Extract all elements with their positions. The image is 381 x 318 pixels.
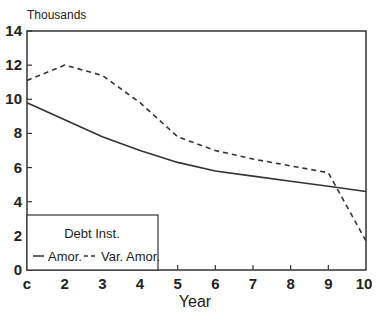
line-chart: Thousands 02468101214 c2345678910 Year D…: [0, 0, 381, 318]
series-line-amor: [27, 103, 366, 192]
x-tick-label: 5: [173, 275, 181, 292]
y-tick-label: 14: [5, 22, 22, 39]
x-axis-label: Year: [179, 293, 212, 310]
x-tick-label: 2: [60, 275, 68, 292]
x-tick-label: 3: [98, 275, 106, 292]
y-tick-label: 2: [14, 227, 22, 244]
x-tick-label: c: [23, 275, 31, 292]
y-tick-label: 12: [5, 56, 22, 73]
x-tick-label: 10: [356, 275, 373, 292]
legend-title: Debt Inst.: [64, 226, 120, 241]
legend-entry-var-amor: Var. Amor.: [101, 249, 160, 264]
y-tick-label: 10: [5, 90, 22, 107]
x-tick-label: 6: [211, 275, 219, 292]
x-tick-label: 7: [249, 275, 257, 292]
y-tick-label: 8: [14, 124, 22, 141]
x-tick-label: 9: [324, 275, 332, 292]
y-tick-label: 4: [14, 193, 23, 210]
legend: Debt Inst. Amor. Var. Amor.: [27, 215, 160, 270]
legend-entry-amor: Amor.: [48, 249, 82, 264]
y-tick-label: 0: [14, 261, 22, 278]
x-tick-label: 8: [286, 275, 294, 292]
y-tick-label: 6: [14, 159, 22, 176]
x-tick-label: 4: [136, 275, 145, 292]
y-unit-label: Thousands: [27, 8, 86, 22]
